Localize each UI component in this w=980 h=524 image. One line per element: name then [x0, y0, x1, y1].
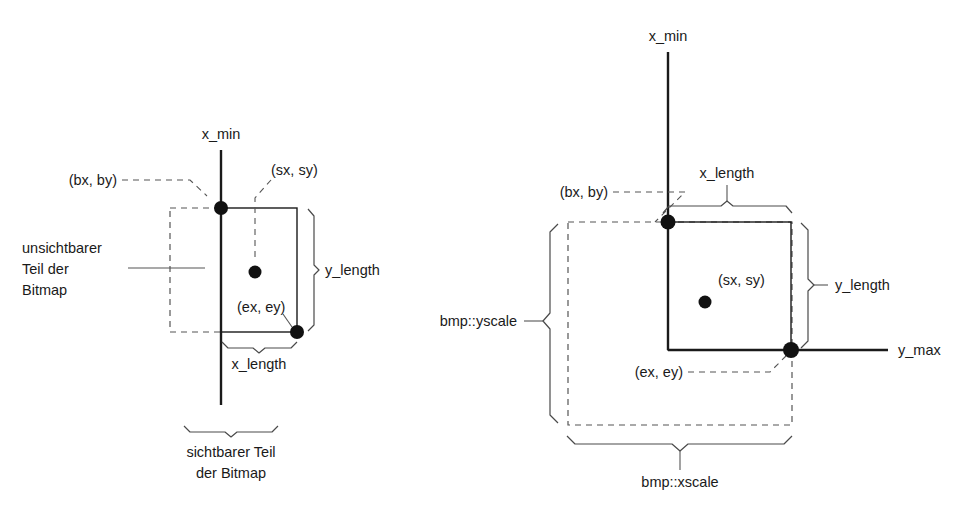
- bitmap-clipping-figure: x_min (bx, by) (sx, sy) (ex, ey) y_lengt…: [0, 0, 980, 524]
- right-whole-bitmap-rect: [568, 222, 792, 425]
- right-x-min-label: x_min: [649, 28, 688, 44]
- right-point-bx-by: [661, 215, 676, 230]
- left-visible-part-line2: der Bitmap: [196, 465, 266, 481]
- left-visible-part-brace: [184, 426, 278, 437]
- right-y-max-label: y_max: [898, 342, 941, 358]
- right-point-ex-ey: [783, 342, 799, 358]
- left-sx-sy-label: (sx, sy): [271, 162, 318, 178]
- left-visible-part-line1: sichtbarer Teil: [186, 444, 275, 460]
- left-x-min-label: x_min: [202, 126, 241, 142]
- diagram-canvas: x_min (bx, by) (sx, sy) (ex, ey) y_lengt…: [0, 0, 980, 524]
- right-diagram-group: x_min y_max (bx, by) (sx, sy) (ex, ey) x…: [440, 28, 942, 490]
- right-bx-by-leader: [613, 192, 685, 222]
- right-bmp-xscale-label: bmp::xscale: [641, 474, 718, 490]
- left-invisible-part-line1: unsichtbarer: [22, 240, 102, 256]
- left-y-length-label: y_length: [325, 262, 380, 278]
- right-bmp-yscale-label: bmp::yscale: [440, 313, 517, 329]
- left-point-bx-by: [214, 201, 228, 215]
- right-bmp-yscale-brace: [543, 224, 558, 423]
- left-x-length-brace: [222, 342, 297, 353]
- right-sx-sy-label: (sx, sy): [718, 272, 765, 288]
- left-ex-ey-label: (ex, ey): [237, 299, 285, 315]
- right-x-length-brace: [663, 201, 792, 213]
- right-x-length-label: x_length: [700, 165, 755, 181]
- right-y-length-label: y_length: [835, 277, 890, 293]
- left-ex-ey-leader: [283, 314, 292, 327]
- left-invisible-bitmap-rect: [170, 208, 221, 332]
- left-diagram-group: x_min (bx, by) (sx, sy) (ex, ey) y_lengt…: [22, 126, 380, 481]
- left-point-ex-ey: [290, 325, 304, 339]
- left-point-sx-sy: [249, 266, 262, 279]
- right-point-sx-sy: [699, 296, 712, 309]
- left-invisible-part-line3: Bitmap: [22, 282, 67, 298]
- left-invisible-part-line2: Teil der: [22, 261, 69, 277]
- left-sx-sy-leader: [255, 180, 271, 260]
- left-y-length-brace: [308, 209, 319, 331]
- right-ex-ey-label: (ex, ey): [635, 364, 683, 380]
- right-bx-by-label: (bx, by): [560, 184, 608, 200]
- right-ex-ey-leader: [688, 356, 786, 372]
- left-bx-by-leader: [122, 180, 207, 196]
- right-bmp-xscale-brace: [567, 436, 792, 451]
- left-x-length-label: x_length: [232, 356, 287, 372]
- right-y-length-brace: [801, 223, 814, 348]
- left-bx-by-label: (bx, by): [69, 172, 117, 188]
